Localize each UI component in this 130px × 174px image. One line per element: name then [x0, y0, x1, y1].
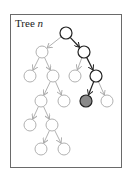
tree-node-n4 [47, 70, 59, 82]
tree-node-root [60, 27, 72, 39]
tree-edge-n12-n14 [55, 130, 61, 143]
tree-node-n6 [90, 70, 102, 82]
tree-node-n13 [35, 143, 47, 155]
tree-node-n7 [35, 95, 47, 107]
tree-edge-n6-n9 [88, 82, 93, 95]
tree-nodes [24, 27, 113, 155]
tree-edge-n12-n13 [44, 130, 50, 143]
tree-edge-n1-n3 [33, 57, 39, 70]
tree-node-n14 [58, 143, 70, 155]
tree-node-n2 [78, 46, 90, 58]
tree-diagram [0, 0, 130, 174]
tree-node-n12 [46, 119, 58, 131]
tree-edge-root-n1 [47, 37, 61, 48]
tree-edge-n2-n6 [87, 57, 93, 70]
tree-edge-n7-n11 [33, 106, 39, 119]
tree-node-n5 [69, 70, 81, 82]
tree-node-n3 [24, 70, 36, 82]
tree-edge-n7-n12 [43, 106, 49, 119]
tree-edge-n6-n10 [98, 81, 104, 95]
tree-edge-n2-n5 [77, 58, 82, 70]
tree-node-n10 [101, 95, 113, 107]
tree-edge-n4-n7 [44, 81, 51, 95]
tree-node-n9 [80, 95, 92, 107]
tree-edge-root-n2 [70, 37, 79, 47]
tree-node-n8 [58, 95, 70, 107]
tree-edge-n4-n8 [55, 81, 61, 95]
tree-edge-n1-n4 [44, 57, 50, 70]
tree-node-n11 [24, 119, 36, 131]
tree-node-n1 [36, 46, 48, 58]
